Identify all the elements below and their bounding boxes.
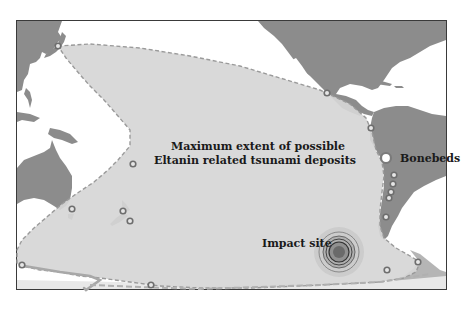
- site-marker-chile-2[interactable]: [390, 181, 396, 187]
- site-marker-chile-4[interactable]: [386, 195, 392, 201]
- site-marker-antarctic-peninsula[interactable]: [415, 259, 421, 265]
- site-marker-chile-1[interactable]: [391, 172, 397, 178]
- site-marker-new-zealand-north[interactable]: [120, 208, 126, 214]
- tsunami-deposits-map: Maximum extent of possible Eltanin relat…: [0, 0, 476, 311]
- impact-site: [314, 227, 364, 277]
- site-marker-pacific-island[interactable]: [130, 161, 136, 167]
- site-marker-southeast-australia[interactable]: [69, 206, 75, 212]
- impact-site-label: Impact site: [262, 237, 332, 250]
- site-marker-chile-5[interactable]: [383, 214, 389, 220]
- site-marker-antarctica-west[interactable]: [19, 262, 25, 268]
- zone-title-line2: Eltanin related tsunami deposits: [154, 154, 356, 167]
- site-marker-antarctica-ross[interactable]: [148, 282, 154, 288]
- site-marker-new-zealand-south[interactable]: [127, 218, 133, 224]
- bonebeds-label: Bonebeds: [400, 152, 460, 165]
- zone-title-line1: Maximum extent of possible: [171, 140, 345, 153]
- site-marker-patagonia[interactable]: [384, 267, 390, 273]
- site-marker-chile-3[interactable]: [388, 189, 394, 195]
- site-marker-central-america[interactable]: [324, 90, 330, 96]
- site-marker-japan[interactable]: [55, 43, 61, 49]
- site-marker-ecuador[interactable]: [368, 125, 374, 131]
- bonebeds-marker[interactable]: [381, 153, 391, 163]
- impact-center: [333, 246, 345, 258]
